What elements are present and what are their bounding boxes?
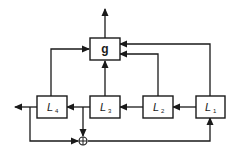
block-l4: L 4 [37, 96, 67, 118]
block-l2-label: L [153, 101, 159, 113]
block-l4-label: L [47, 101, 53, 113]
block-g-label: g [101, 42, 108, 56]
block-l1: L 1 [196, 96, 225, 118]
block-l3: L 3 [90, 96, 120, 118]
block-l2: L 2 [143, 96, 173, 118]
summing-junction [79, 137, 87, 145]
block-l3-label: L [100, 101, 106, 113]
l4-to-g-arrow [51, 49, 89, 96]
sum-to-l1-arrow [88, 118, 210, 141]
block-l1-label: L [205, 101, 211, 113]
l2-to-g-arrow [120, 54, 158, 96]
block-diagram: g L 4 L 3 L 2 L 1 [0, 0, 236, 156]
l1-to-g-arrow [120, 44, 210, 96]
block-g: g [90, 38, 120, 60]
